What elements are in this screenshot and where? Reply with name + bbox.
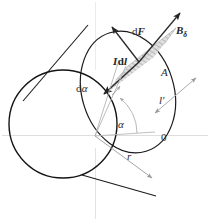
label-zero: 0 xyxy=(161,131,167,143)
radius-line-upper xyxy=(95,60,119,136)
angle-arcs xyxy=(112,86,137,133)
label-area-A: A xyxy=(160,66,168,78)
figure-container: dF Bδ Idl A l' 0 dα α r xyxy=(0,0,210,219)
label-radius-r: r xyxy=(127,150,132,162)
cylinder-bottom-edge xyxy=(82,175,156,196)
label-force: dF xyxy=(132,25,146,37)
radius-arrow xyxy=(95,136,152,178)
flux-density-arrow xyxy=(139,13,180,62)
label-alpha: α xyxy=(118,118,124,130)
label-d-alpha: dα xyxy=(76,82,88,94)
cylinder-body xyxy=(23,19,190,196)
physics-diagram: dF Bδ Idl A l' 0 dα α r xyxy=(0,0,210,219)
label-length-lprime: l' xyxy=(159,94,165,106)
label-flux-density-subscript: δ xyxy=(183,30,187,39)
label-current-element: Idl xyxy=(112,55,128,67)
label-flux-density: Bδ xyxy=(175,24,187,39)
label-flux-density-base: B xyxy=(175,24,183,36)
